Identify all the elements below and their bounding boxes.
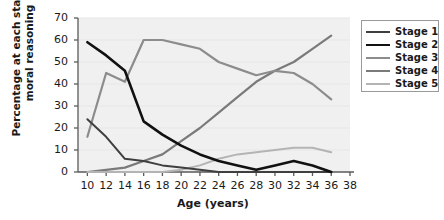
legend-item[interactable]: Stage 1: [362, 25, 438, 38]
legend-swatch-icon: [366, 83, 390, 85]
legend-item[interactable]: Stage 3: [362, 51, 438, 64]
legend-swatch-icon: [366, 70, 390, 72]
x-axis-title: Age (years): [78, 197, 348, 210]
plot-background: [78, 18, 350, 172]
chart-figure: Percentage at each stage of moral reason…: [0, 0, 444, 220]
legend-label: Stage 5: [395, 78, 438, 89]
legend-item[interactable]: Stage 2: [362, 38, 438, 51]
x-tick-label: 38: [339, 179, 361, 192]
y-tick-label: 70: [42, 11, 68, 24]
y-tick-label: 60: [42, 33, 68, 46]
legend-swatch-icon: [366, 57, 390, 59]
y-tick-label: 30: [42, 99, 68, 112]
legend-item[interactable]: Stage 4: [362, 64, 438, 77]
legend-swatch-icon: [366, 44, 390, 46]
chart-legend: Stage 1Stage 2Stage 3Stage 4Stage 5: [361, 20, 439, 92]
legend-item[interactable]: Stage 5: [362, 77, 438, 90]
legend-label: Stage 2: [395, 39, 438, 50]
y-tick-label: 0: [42, 165, 68, 178]
y-axis-title: Percentage at each stage of moral reason…: [10, 0, 36, 138]
legend-label: Stage 3: [395, 52, 438, 63]
legend-label: Stage 4: [395, 65, 438, 76]
legend-swatch-icon: [366, 31, 390, 33]
legend-label: Stage 1: [395, 26, 438, 37]
y-tick-label: 40: [42, 77, 68, 90]
y-tick-label: 10: [42, 143, 68, 156]
y-tick-label: 50: [42, 55, 68, 68]
y-tick-label: 20: [42, 121, 68, 134]
